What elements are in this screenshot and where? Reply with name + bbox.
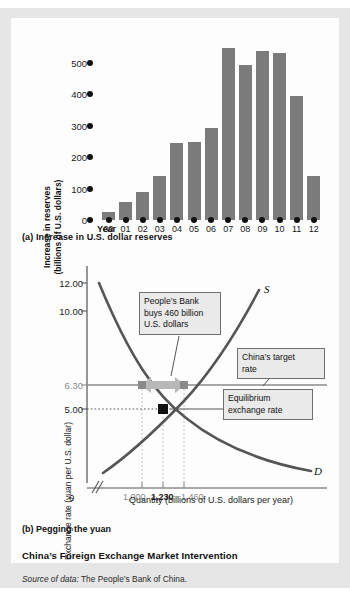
bar-x-tick-dot-12 — [311, 217, 317, 223]
sd-callout-target-rate: China’s target rate — [237, 348, 325, 379]
bar-y-tick-100: 100 — [71, 184, 87, 195]
bar-x-tick-dot-05 — [191, 217, 197, 223]
figure-source-note: Source of data: The People’s Bank of Chi… — [22, 574, 187, 584]
bar-11 — [290, 96, 303, 220]
bar-x-tick-label-07: 07 — [219, 224, 237, 234]
sd-x-axis-label: Quantity (billions of U.S. dollars per y… — [129, 495, 293, 505]
source-value: The People’s Bank of China. — [79, 574, 187, 584]
source-label: Source of data: — [22, 574, 79, 584]
bar-y-tick-300: 300 — [71, 121, 87, 132]
bar-y-tick-200: 200 — [71, 152, 87, 163]
bar-08 — [239, 65, 252, 220]
sd-leader-line-intervention — [171, 336, 179, 376]
sd-callout-intervention: People’s Bank buys 460 billion U.S. doll… — [139, 292, 221, 335]
bar-y-tick-dot-100 — [87, 186, 93, 192]
bar-chart-plot-area: 00010203040506070809101112 — [97, 34, 331, 220]
bar-07 — [222, 48, 235, 220]
panel-a-bar-chart: Increase in reserves (billions of U.S. d… — [11, 18, 339, 243]
bar-02 — [136, 192, 149, 220]
bar-x-tick-label-06: 06 — [202, 224, 220, 234]
bar-y-tick-500: 500 — [71, 58, 87, 69]
sd-diagram-svg — [11, 250, 339, 515]
bar-x-tick-dot-01 — [123, 217, 129, 223]
sd-callout-intervention-line3: U.S. dollars — [144, 319, 188, 329]
sd-x-tick-zero: 0 — [69, 492, 74, 503]
figure-title: China’s Foreign Exchange Market Interven… — [22, 550, 238, 561]
panel-b-caption: (b) Pegging the yuan — [22, 524, 111, 534]
sd-callout-equilibrium-line1: Equilibrium — [228, 393, 271, 403]
bar-y-tick-dot-0 — [87, 217, 93, 223]
bar-x-tick-label-09: 09 — [253, 224, 271, 234]
bar-03 — [153, 176, 166, 220]
bar-x-tick-dot-11 — [294, 217, 300, 223]
sd-callout-equilibrium: Equilibrium exchange rate — [223, 389, 313, 420]
bar-x-tick-label-05: 05 — [185, 224, 203, 234]
panel-a-caption: (a) Increase in U.S. dollar reserves — [22, 232, 173, 242]
sd-axis-break-mark-2 — [96, 481, 103, 493]
bar-x-tick-dot-10 — [277, 217, 283, 223]
bar-x-tick-dot-03 — [157, 217, 163, 223]
bar-04 — [170, 143, 183, 220]
sd-quantity-demanded-point — [180, 381, 188, 389]
bar-y-tick-dot-400 — [87, 91, 93, 97]
bar-x-tick-dot-06 — [208, 217, 214, 223]
bar-y-tick-dot-300 — [87, 123, 93, 129]
bar-x-tick-label-10: 10 — [271, 224, 289, 234]
bar-05 — [188, 142, 201, 220]
sd-axis-break-mark-1 — [92, 481, 99, 493]
sd-demand-curve-label: D — [314, 465, 322, 477]
bar-x-tick-label-12: 12 — [305, 224, 323, 234]
bar-x-tick-dot-00 — [106, 217, 112, 223]
bar-chart-y-axis-label: Increase in reserves (billions of U.S. d… — [41, 38, 55, 208]
bar-x-tick-label-11: 11 — [288, 224, 306, 234]
sd-quantity-supplied-point — [138, 381, 146, 389]
sd-supply-curve-label: S — [264, 283, 270, 295]
sd-callout-target-rate-line1: China’s target — [242, 352, 295, 362]
bar-y-tick-400: 400 — [71, 89, 87, 100]
bar-x-tick-label-08: 08 — [236, 224, 254, 234]
bar-x-tick-dot-02 — [140, 217, 146, 223]
sd-intervention-arrow — [141, 377, 185, 393]
bar-06 — [205, 128, 218, 220]
bar-10 — [273, 53, 286, 220]
sd-equilibrium-point — [158, 404, 168, 414]
sd-callout-target-rate-line2: rate — [242, 364, 257, 374]
bar-12 — [307, 176, 320, 220]
panel-b-supply-demand-chart: Exchange rate (yuan per U.S. dollar) 12.… — [11, 250, 339, 515]
sd-callout-intervention-line1: People’s Bank — [144, 296, 199, 306]
bar-x-tick-dot-08 — [242, 217, 248, 223]
bar-x-tick-dot-04 — [174, 217, 180, 223]
bar-x-tick-dot-07 — [225, 217, 231, 223]
bar-y-tick-dot-200 — [87, 154, 93, 160]
sd-callout-intervention-line2: buys 460 billion — [144, 308, 203, 318]
bar-x-tick-dot-09 — [259, 217, 265, 223]
bar-y-tick-dot-500 — [87, 60, 93, 66]
bar-09 — [256, 51, 269, 220]
figure-page: Increase in reserves (billions of U.S. d… — [0, 0, 350, 607]
sd-callout-equilibrium-line2: exchange rate — [228, 405, 282, 415]
